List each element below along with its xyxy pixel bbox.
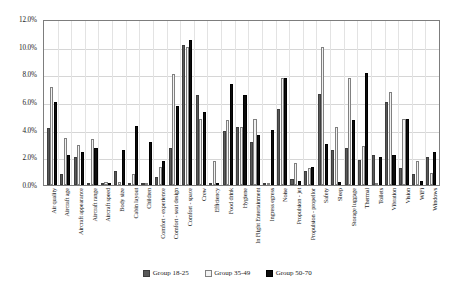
bar <box>257 135 260 185</box>
x-axis-tick: Comfort - space <box>180 188 194 270</box>
x-axis-tick: Aircraft range <box>85 188 99 270</box>
bar-group <box>167 21 181 185</box>
bar-group <box>113 21 127 185</box>
bar-group <box>329 21 343 185</box>
legend-swatch-icon <box>143 270 150 277</box>
x-axis-tick-label: Propulsion - jet <box>296 188 303 224</box>
bar-group <box>72 21 86 185</box>
bar <box>335 127 338 185</box>
bar-group <box>140 21 154 185</box>
x-axis-tick: Windows <box>426 188 440 270</box>
bar-group <box>59 21 73 185</box>
x-axis-tick: Aircraft speed <box>99 188 113 270</box>
x-axis-tick: Crew <box>194 188 208 270</box>
x-axis-tick: In Flight Entertainment <box>248 188 262 270</box>
x-axis-tick: Ingress egress <box>262 188 276 270</box>
x-axis-tick: Sleep <box>330 188 344 270</box>
bar <box>149 142 152 185</box>
x-axis-tick-label: Aircraft range <box>92 188 99 221</box>
bar-group <box>424 21 438 185</box>
x-axis-tick: Propulsion - jet <box>289 188 303 270</box>
x-axis-tick-label: Body size <box>119 188 126 212</box>
x-axis-tick: Cabin layout <box>126 188 140 270</box>
x-axis-tick-label: WiFi <box>419 188 426 200</box>
bar-group <box>384 21 398 185</box>
y-axis-tick-label: 10.0% <box>19 44 37 52</box>
bar-group <box>208 21 222 185</box>
bar-group <box>45 21 59 185</box>
bar <box>372 155 375 185</box>
bar-group <box>126 21 140 185</box>
x-axis-tick-label: Air quality <box>51 188 58 214</box>
bar-group <box>153 21 167 185</box>
x-axis-tick: Storage luggage <box>344 188 358 270</box>
x-axis-tick: Comfort - experience <box>153 188 167 270</box>
bar <box>352 120 355 185</box>
x-axis-tick-label: Comfort - experience <box>160 188 167 239</box>
x-axis-tick-label: Children <box>146 188 153 209</box>
legend-label: Group 35-49 <box>214 269 250 277</box>
y-axis-tick-label: 6.0% <box>22 99 37 107</box>
legend-swatch-icon <box>266 270 273 277</box>
bar-group <box>370 21 384 185</box>
x-axis-tick: Toilets <box>371 188 385 270</box>
bar <box>213 161 216 185</box>
bar <box>230 84 233 185</box>
x-axis-tick-label: Hygiene <box>242 188 249 208</box>
bar-group <box>343 21 357 185</box>
x-axis-tick-label: Propulsion - propellor <box>310 188 317 240</box>
x-axis-tick: Safety <box>317 188 331 270</box>
x-axis-tick-label: Sleep <box>337 188 344 201</box>
x-axis-tick: Vibration <box>385 188 399 270</box>
x-axis-tick: Food drink <box>221 188 235 270</box>
x-axis-tick-label: Toilets <box>378 188 385 204</box>
bar <box>298 181 301 185</box>
bar <box>243 95 246 185</box>
figure-container: 12.0%10.0%8.0%6.0%4.0%2.0%0.0% Air quali… <box>0 0 455 299</box>
x-axis-tick-label: Storage luggage <box>351 188 358 227</box>
x-axis-tick: Aircraft age <box>58 188 72 270</box>
bar <box>406 119 409 185</box>
bar-group <box>302 21 316 185</box>
legend-label: Group 18-25 <box>153 269 189 277</box>
x-axis: Air qualityAircraft ageAircraft appearan… <box>43 188 440 270</box>
x-axis-tick: Efficiency <box>208 188 222 270</box>
legend-item[interactable]: Group 18-25 <box>143 269 188 277</box>
bar <box>135 126 138 185</box>
bar <box>176 106 179 185</box>
bar <box>94 148 97 185</box>
bar <box>271 130 274 185</box>
x-axis-tick-label: Crew <box>201 188 208 201</box>
bar-group <box>316 21 330 185</box>
legend-label: Group 50-70 <box>276 269 312 277</box>
bar-group <box>235 21 249 185</box>
x-axis-tick-label: Noise <box>282 188 289 202</box>
bar <box>108 183 111 185</box>
bar-group <box>221 21 235 185</box>
bar <box>325 144 328 186</box>
y-axis-tick-label: 2.0% <box>22 154 37 162</box>
x-axis-tick-label: In Flight Entertainment <box>255 188 262 244</box>
x-axis-tick: Body size <box>112 188 126 270</box>
legend-item[interactable]: Group 50-70 <box>266 269 311 277</box>
bars-layer <box>44 21 439 185</box>
bar <box>365 73 368 185</box>
bar <box>392 155 395 185</box>
x-axis-tick: WiFi <box>412 188 426 270</box>
legend-item[interactable]: Group 35-49 <box>205 269 250 277</box>
legend-swatch-icon <box>205 270 212 277</box>
x-axis-tick: Aircraft appearance <box>71 188 85 270</box>
x-axis-tick: Propulsion - propellor <box>303 188 317 270</box>
x-axis-tick: Hygiene <box>235 188 249 270</box>
x-axis-tick: Air quality <box>44 188 58 270</box>
bar-group <box>275 21 289 185</box>
chart-legend: Group 18-25Group 35-49Group 50-70 <box>0 269 455 277</box>
x-axis-tick-label: Cabin layout <box>133 188 140 219</box>
bar <box>189 40 192 185</box>
x-axis-tick-label: Efficiency <box>214 188 221 213</box>
x-axis-tick: Comfort - seat design <box>167 188 181 270</box>
bar-group <box>411 21 425 185</box>
y-axis-tick-label: 4.0% <box>22 127 37 135</box>
y-axis-tick-label: 8.0% <box>22 71 37 79</box>
y-axis-tick-label: 0.0% <box>22 182 37 190</box>
